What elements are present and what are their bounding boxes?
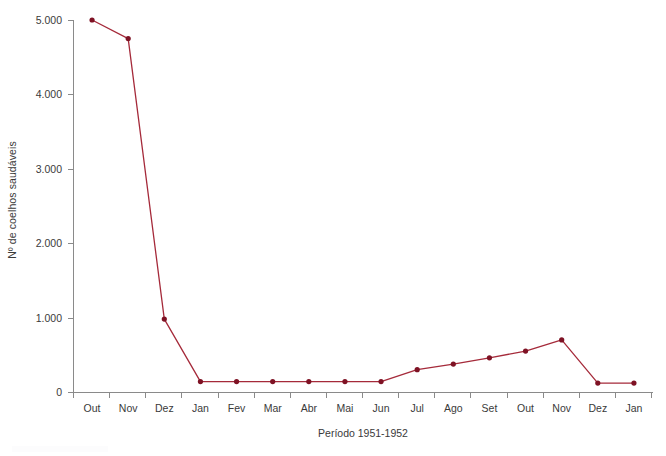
line-chart: Nº de coelhos saudáveis 01.0002.0003.000…: [0, 0, 666, 456]
y-axis-tick: [68, 318, 73, 319]
x-axis-tick: [470, 393, 471, 398]
y-axis-title: Nº de coelhos saudáveis: [0, 0, 24, 400]
data-point-marker: [162, 316, 167, 321]
y-axis-tick: [68, 169, 73, 170]
y-axis-tick: [68, 94, 73, 95]
data-point-marker: [378, 379, 383, 384]
data-point-marker: [451, 362, 456, 367]
x-axis-tick-label: Mar: [264, 402, 282, 414]
x-axis-tick-label: Dez: [588, 402, 607, 414]
y-axis-tick-label: 5.000: [0, 14, 62, 26]
x-axis-tick-label: Abr: [301, 402, 317, 414]
x-axis-tick: [507, 393, 508, 398]
x-axis-tick-label: Jan: [625, 402, 642, 414]
x-axis-tick: [109, 393, 110, 398]
series-plot: [74, 20, 652, 392]
x-axis-tick: [651, 393, 652, 398]
data-point-marker: [342, 379, 347, 384]
x-axis-tick: [579, 393, 580, 398]
x-axis-tick: [398, 393, 399, 398]
y-axis-tick-label: 4.000: [0, 88, 62, 100]
x-axis-tick: [145, 393, 146, 398]
y-axis-tick: [68, 243, 73, 244]
data-point-marker: [415, 367, 420, 372]
x-axis-tick: [290, 393, 291, 398]
x-axis-tick: [615, 393, 616, 398]
data-point-marker: [631, 380, 636, 385]
y-axis-tick-label: 2.000: [0, 237, 62, 249]
y-axis-tick-label: 1.000: [0, 312, 62, 324]
scan-artifact: [12, 446, 108, 452]
data-point-marker: [89, 17, 94, 22]
x-axis-line: [73, 392, 653, 393]
x-axis-tick-label: Ago: [444, 402, 463, 414]
x-axis-tick-label: Nov: [119, 402, 138, 414]
x-axis-tick: [254, 393, 255, 398]
x-axis-tick-label: Set: [482, 402, 498, 414]
x-axis-tick: [543, 393, 544, 398]
x-axis-tick-label: Jun: [373, 402, 390, 414]
x-axis-tick-label: Nov: [552, 402, 571, 414]
y-axis-tick: [68, 20, 73, 21]
y-axis-tick-label: 3.000: [0, 163, 62, 175]
x-axis-tick-label: Dez: [155, 402, 174, 414]
data-point-marker: [126, 36, 131, 41]
x-axis-tick-label: Jul: [410, 402, 423, 414]
data-point-marker: [234, 379, 239, 384]
x-axis-tick-label: Fev: [228, 402, 246, 414]
x-axis-tick: [73, 393, 74, 398]
x-axis-tick: [218, 393, 219, 398]
x-axis-tick: [362, 393, 363, 398]
x-axis-tick-label: Out: [84, 402, 101, 414]
data-point-marker: [198, 379, 203, 384]
y-axis-tick-label: 0: [0, 386, 62, 398]
x-axis-tick-label: Mai: [336, 402, 353, 414]
data-point-marker: [595, 380, 600, 385]
x-axis-tick-label: Jan: [192, 402, 209, 414]
x-axis-tick: [181, 393, 182, 398]
x-axis-tick: [326, 393, 327, 398]
x-axis-title: Período 1951-1952: [74, 427, 652, 439]
data-point-marker: [306, 379, 311, 384]
x-axis-tick-label: Out: [517, 402, 534, 414]
x-axis-tick: [434, 393, 435, 398]
series-line: [92, 20, 634, 383]
data-point-marker: [487, 355, 492, 360]
plot-area: [74, 20, 652, 392]
data-point-marker: [523, 348, 528, 353]
data-point-marker: [270, 379, 275, 384]
data-point-marker: [559, 337, 564, 342]
